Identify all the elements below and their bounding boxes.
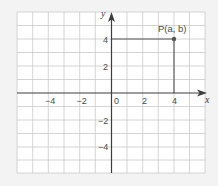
x-tick-label: 4 [172, 96, 177, 106]
point-p [172, 37, 176, 41]
x-axis-label: x [204, 94, 210, 105]
coordinate-plane: x y −4 −2 0 2 4 4 2 −2 −4 P(a, b) [0, 0, 218, 186]
y-tick-label: 2 [103, 62, 108, 72]
y-axis-label: y [100, 8, 106, 19]
y-tick-label: −2 [98, 116, 108, 126]
x-tick-label: 2 [142, 96, 147, 106]
x-tick-label: 0 [114, 96, 119, 106]
point-label: P(a, b) [158, 23, 187, 34]
x-tick-label: −2 [77, 96, 87, 106]
y-tick-label: −4 [98, 142, 108, 152]
x-tick-label: −4 [45, 96, 55, 106]
y-tick-label: 4 [103, 35, 108, 45]
